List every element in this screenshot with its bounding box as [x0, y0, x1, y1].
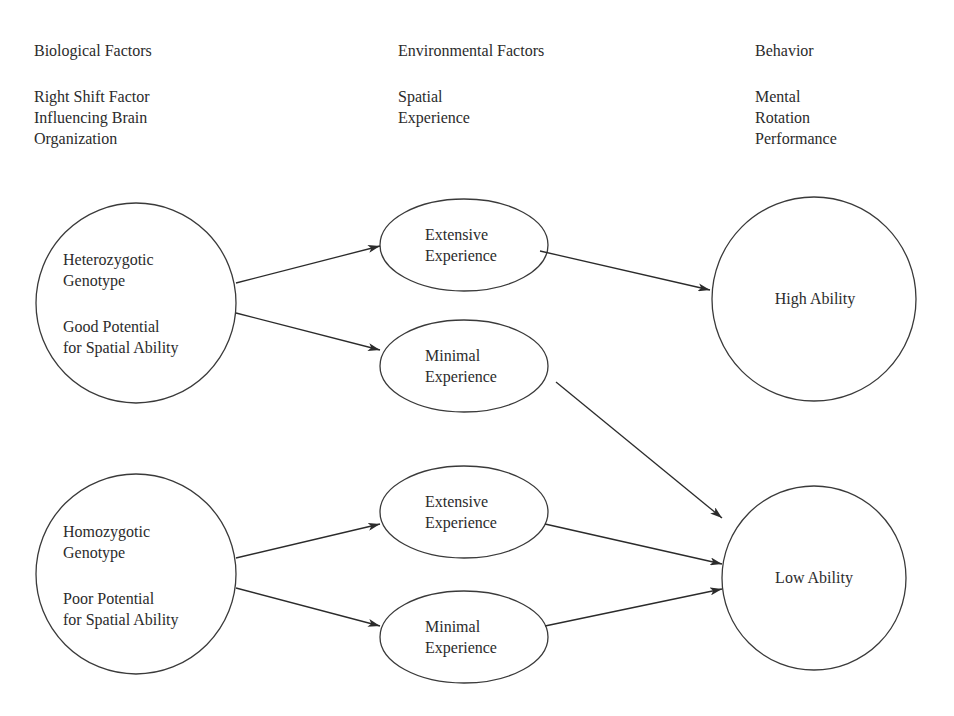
node-high-ability-label: High Ability [775, 288, 855, 309]
node-homozygotic-shape [36, 474, 236, 674]
arrow-homo-to-minimal [236, 588, 380, 626]
node-low-ability-label: Low Ability [775, 567, 853, 588]
node-homozygotic-detail: Poor Potential for Spatial Ability [63, 588, 179, 630]
arrow-homo-to-extensive [236, 524, 380, 558]
arrow-hetero-to-minimal [236, 313, 380, 350]
arrow-minimal-to-low [556, 382, 722, 518]
arrow-hetero-to-extensive [236, 246, 380, 283]
arrow-extensive-to-high [540, 251, 710, 290]
node-heterozygotic-detail: Good Potential for Spatial Ability [63, 316, 179, 358]
node-extensive-2-label: Extensive Experience [425, 491, 497, 533]
node-heterozygotic-shape [36, 203, 236, 403]
arrow-extensive-to-low [545, 524, 722, 564]
node-minimal-1-label: Minimal Experience [425, 345, 497, 387]
node-minimal-2-label: Minimal Experience [425, 616, 497, 658]
node-extensive-1-label: Extensive Experience [425, 224, 497, 266]
node-homozygotic-title: Homozygotic Genotype [63, 521, 150, 563]
node-heterozygotic-title: Heterozygotic Genotype [63, 249, 154, 291]
arrow-minimal-to-low-2 [545, 589, 722, 626]
